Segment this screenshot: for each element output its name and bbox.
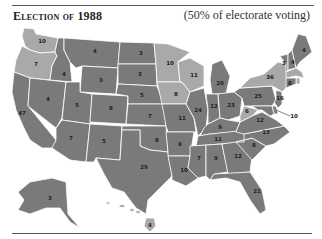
ev-label-ia: 8: [174, 91, 178, 97]
ev-label-sd: 3: [138, 71, 142, 77]
ev-label-il: 24: [194, 107, 202, 113]
state-hi-islands: [119, 204, 125, 207]
state-ak[interactable]: [18, 178, 80, 228]
state-hi-islands: [136, 211, 141, 214]
ev-label-al: 9: [214, 155, 218, 161]
ev-label-sc: 8: [252, 142, 256, 148]
state-mi[interactable]: [210, 60, 230, 94]
ev-label-ak: 3: [48, 195, 52, 201]
ev-label-wy: 3: [99, 77, 103, 83]
state-ri[interactable]: [296, 78, 300, 84]
ev-label-ar: 6: [178, 141, 182, 147]
state-az[interactable]: [52, 120, 90, 162]
ev-label-mo: 11: [178, 115, 186, 121]
ev-label-ok: 8: [155, 137, 159, 143]
ev-label-fl: 21: [253, 188, 261, 194]
ev-label-mt: 4: [93, 48, 97, 54]
state-nd[interactable]: [118, 42, 156, 64]
ev-label-la: 10: [180, 167, 188, 173]
ev-label-ky: 9: [218, 124, 222, 130]
ev-label-va: 12: [256, 117, 264, 123]
ev-label-wv: 6: [245, 108, 249, 114]
us-election-map: 10 7 47 4 4 4 3 5 7 8 5 3 3 5 7 8 29 10 …: [0, 0, 322, 239]
ev-label-pa: 25: [254, 93, 262, 99]
ev-label-ny: 36: [266, 74, 274, 80]
ev-label-tn: 11: [214, 136, 222, 142]
ev-label-ga: 12: [234, 153, 242, 159]
state-ks[interactable]: [126, 104, 166, 126]
ev-label-nd: 3: [139, 50, 143, 56]
ev-label-nj: 16: [276, 95, 284, 101]
ev-label-oh: 23: [227, 102, 235, 108]
state-hi-islands: [130, 209, 135, 212]
ev-label-md: 10: [290, 113, 298, 119]
ev-label-hi: 4: [148, 222, 152, 228]
state-hi-islands: [106, 202, 110, 204]
ev-label-nm: 5: [102, 138, 106, 144]
ev-label-ut: 5: [75, 102, 79, 108]
ev-label-me: 4: [302, 47, 306, 53]
ev-label-wa: 10: [38, 38, 46, 44]
ev-label-vt: 3: [282, 60, 286, 66]
bottom-rule: [12, 233, 312, 234]
ev-label-co: 8: [109, 105, 113, 111]
ev-label-in: 12: [210, 103, 218, 109]
ev-label-id: 4: [62, 71, 66, 77]
ev-label-ct: 8: [288, 80, 292, 86]
ev-label-ks: 7: [148, 113, 152, 119]
ev-label-or: 7: [34, 61, 38, 67]
ev-label-az: 7: [69, 135, 73, 141]
ev-label-nh: 4: [291, 59, 295, 65]
ev-label-ms: 7: [197, 155, 201, 161]
ev-label-mn: 10: [166, 60, 174, 66]
ev-label-nc: 13: [262, 129, 270, 135]
ev-label-ne: 5: [140, 92, 144, 98]
ev-label-ca: 47: [18, 110, 26, 116]
ev-label-tx: 29: [140, 164, 148, 170]
ev-label-mi: 20: [216, 80, 224, 86]
ev-label-wi: 11: [190, 72, 198, 78]
ev-label-nv: 4: [46, 96, 50, 102]
state-mt[interactable]: [64, 38, 120, 68]
